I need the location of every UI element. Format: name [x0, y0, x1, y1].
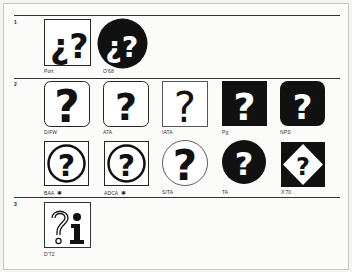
section-number-2: 2	[14, 81, 17, 87]
dfw-question-icon: ?	[44, 81, 90, 127]
svg-text:?: ?	[54, 81, 80, 127]
port-question-icon: ¿?	[44, 19, 91, 66]
adca-label-text: ADCA	[104, 190, 118, 196]
svg-text:¿?: ¿?	[105, 30, 138, 64]
sta-question-icon: ?	[162, 140, 208, 186]
iata-label: IATA	[162, 129, 173, 135]
nps-label: NPS	[280, 129, 291, 135]
pg-label: Pg	[222, 129, 228, 135]
baa-marker-icon: ✱	[57, 190, 62, 196]
ta-label: TA	[222, 189, 228, 195]
svg-text:?: ?	[293, 87, 313, 126]
iata-question-icon: ?	[162, 81, 208, 127]
port-label: Port	[44, 68, 54, 74]
svg-text:?: ?	[296, 153, 310, 181]
section-number-3: 3	[14, 201, 17, 207]
svg-text:¿?: ¿?	[50, 27, 89, 66]
section-1-divider	[14, 15, 340, 16]
svg-text:?: ?	[118, 148, 135, 183]
svg-text:?: ?	[173, 141, 197, 186]
baa-label: BAA✱	[44, 189, 62, 196]
o68-label: O'68	[103, 68, 114, 74]
section-2-divider	[14, 78, 340, 79]
section-3-divider	[14, 197, 340, 198]
baa-label-text: BAA	[44, 190, 54, 196]
svg-text:?: ?	[174, 83, 196, 127]
x70-question-icon: ?	[281, 142, 325, 187]
nps-question-icon: ?	[280, 81, 325, 126]
d72-label: D'72	[44, 251, 55, 257]
adca-label: ADCA✱	[104, 189, 126, 196]
sta-label: S/TA	[162, 189, 173, 195]
section-number-1: 1	[14, 19, 17, 25]
svg-text:?: ?	[235, 145, 254, 183]
ata-label: ATA	[103, 129, 112, 135]
pg-question-icon: ?	[222, 81, 267, 126]
o68-question-icon: ¿?	[97, 18, 148, 69]
ata-question-icon: ?	[103, 81, 149, 127]
adca-question-icon: ?	[104, 141, 149, 186]
x70-label: X'70	[281, 189, 291, 195]
ta-question-icon: ?	[222, 140, 266, 184]
d72-question-info-icon	[44, 202, 91, 248]
baa-question-icon: ?	[44, 141, 89, 186]
svg-text:?: ?	[115, 85, 137, 127]
svg-text:?: ?	[233, 85, 255, 126]
adca-marker-icon: ✱	[121, 190, 126, 196]
svg-text:?: ?	[58, 148, 75, 183]
dfw-label: D/FW	[44, 129, 57, 135]
